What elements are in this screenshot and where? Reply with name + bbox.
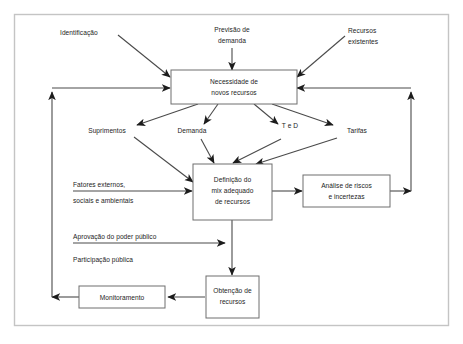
arrow-necessidade-to-demanda <box>204 104 218 124</box>
label-identificacao: Identificação <box>60 29 98 37</box>
arrow-necessidade-to-suprimentos <box>137 104 198 125</box>
label-fatores-externos-line1: Fatores externos, <box>73 181 125 188</box>
label-fatores-externos-line2: sociais e ambientais <box>73 197 134 204</box>
label-demanda: Demanda <box>178 127 207 134</box>
box-obtencao-recursos <box>206 276 259 318</box>
box-definicao-line3: de recursos <box>215 198 251 205</box>
arrow-demanda-to-definicao <box>201 139 214 163</box>
box-necessidade-line2: novos recursos <box>211 89 257 96</box>
arrow-identificacao-to-necessidade <box>118 35 170 77</box>
box-monitoramento-line1: Monitoramento <box>100 294 145 301</box>
box-analise-line2: e incertezas <box>328 193 365 200</box>
label-recursos-existentes-line1: Recursos <box>348 27 377 34</box>
label-previsao-demanda-line2: demanda <box>218 37 246 44</box>
flow-diagram: Necessidade de novos recursos Definição … <box>0 0 463 344</box>
label-aprovacao-poder-publico: Aprovação do poder público <box>73 233 157 241</box>
arrow-recursos-existentes-to-necessidade <box>297 36 345 77</box>
box-analise-line1: Análise de riscos <box>321 182 372 189</box>
arrow-tarifas-to-definicao <box>256 138 337 164</box>
box-analise-riscos-incertezas <box>303 175 390 207</box>
diagram-canvas: Necessidade de novos recursos Definição … <box>0 0 463 344</box>
label-recursos-existentes-line2: existentes <box>348 38 379 45</box>
arrow-suprimentos-to-definicao <box>134 137 193 182</box>
label-suprimentos: Suprimentos <box>88 127 126 135</box>
box-definicao-line1: Definição do <box>214 176 252 184</box>
box-necessidade-novos-recursos <box>171 70 297 104</box>
label-tarifas: Tarifas <box>347 127 367 134</box>
box-necessidade-line1: Necessidade de <box>210 78 258 85</box>
label-ted: T e D <box>282 122 298 129</box>
arrow-ted-to-definicao <box>233 139 281 163</box>
label-previsao-demanda-line1: Previsão de <box>214 26 250 33</box>
box-obtencao-line1: Obtenção de <box>213 287 252 295</box>
box-obtencao-line2: recursos <box>220 298 246 305</box>
box-definicao-line2: mix adequado <box>211 187 253 195</box>
label-participacao-publica: Participação pública <box>73 256 133 264</box>
arrow-necessidade-to-ted <box>254 104 278 124</box>
